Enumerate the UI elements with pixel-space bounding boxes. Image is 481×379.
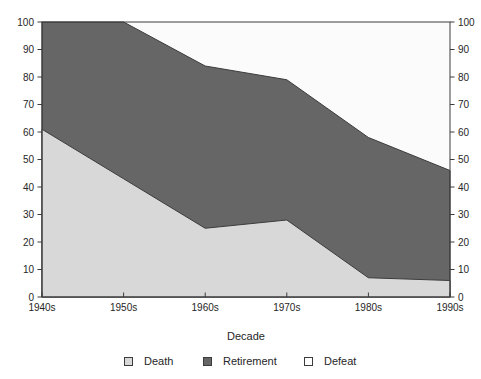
y-tick-label-right: 80 (458, 72, 470, 83)
x-tick-label: 1970s (273, 302, 300, 313)
chart-legend: Death Retirement Defeat (0, 352, 481, 370)
y-tick-label-right: 100 (458, 17, 475, 28)
legend-item-death: Death (124, 352, 173, 370)
legend-label-defeat: Defeat (324, 355, 356, 367)
y-tick-label-right: 90 (458, 44, 470, 55)
stacked-area-chart: 0010102020303040405050606070708080909010… (0, 0, 481, 379)
y-tick-label-left: 30 (23, 209, 35, 220)
y-tick-label-right: 20 (458, 237, 470, 248)
legend-label-death: Death (144, 355, 173, 367)
legend-item-defeat: Defeat (304, 352, 356, 370)
y-tick-label-right: 30 (458, 209, 470, 220)
legend-swatch-defeat (304, 357, 313, 366)
y-tick-label-right: 70 (458, 99, 470, 110)
y-tick-label-left: 50 (23, 154, 35, 165)
y-tick-label-left: 60 (23, 127, 35, 138)
x-axis-title: Decade (42, 330, 450, 342)
y-tick-label-left: 0 (28, 292, 34, 303)
y-tick-label-right: 50 (458, 154, 470, 165)
y-tick-label-right: 0 (458, 292, 464, 303)
y-tick-label-left: 90 (23, 44, 35, 55)
legend-swatch-death (124, 357, 133, 366)
x-tick-label: 1980s (355, 302, 382, 313)
y-tick-label-left: 100 (17, 17, 34, 28)
legend-item-retirement: Retirement (203, 352, 277, 370)
legend-swatch-retirement (203, 357, 212, 366)
x-tick-label: 1960s (192, 302, 219, 313)
x-tick-label: 1940s (28, 302, 55, 313)
legend-label-retirement: Retirement (223, 355, 277, 367)
x-tick-label: 1990s (436, 302, 463, 313)
chart-window: 0010102020303040405050606070708080909010… (0, 0, 481, 379)
x-tick-label: 1950s (110, 302, 137, 313)
y-tick-label-left: 70 (23, 99, 35, 110)
y-tick-label-right: 10 (458, 264, 470, 275)
y-tick-label-left: 20 (23, 237, 35, 248)
y-tick-label-right: 40 (458, 182, 470, 193)
y-tick-label-right: 60 (458, 127, 470, 138)
y-tick-label-left: 80 (23, 72, 35, 83)
y-tick-label-left: 10 (23, 264, 35, 275)
y-tick-label-left: 40 (23, 182, 35, 193)
